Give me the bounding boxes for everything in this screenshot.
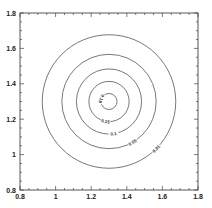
- x-tick-label: 1.6: [158, 193, 168, 200]
- x-tick-label: 1: [54, 193, 58, 200]
- plot-frame: [20, 13, 198, 190]
- y-tick-label: 1: [12, 151, 16, 158]
- axis-ticks: [20, 13, 198, 190]
- y-tick-label: 1.8: [6, 10, 16, 17]
- y-tick-label: 1.6: [6, 45, 16, 52]
- x-tick-label: 1.8: [193, 193, 203, 200]
- contour-label: 0.05: [128, 138, 139, 147]
- contour-label: 0.15: [101, 118, 111, 125]
- axes-box: [20, 13, 198, 190]
- y-axis-tick-labels: 0.811.21.41.61.8: [6, 10, 16, 194]
- x-tick-label: 1.2: [86, 193, 96, 200]
- x-axis-tick-labels: 0.811.21.41.61.8: [15, 193, 203, 200]
- x-tick-label: 0.8: [15, 193, 25, 200]
- contour-chart: 0.811.21.41.61.8 0.811.21.41.61.8 0.190.…: [0, 0, 212, 208]
- y-tick-label: 1.2: [6, 116, 16, 123]
- x-tick-label: 1.4: [122, 193, 132, 200]
- contour-label: 0.1: [110, 131, 117, 137]
- contour-line: [89, 81, 129, 121]
- y-tick-label: 0.8: [6, 187, 16, 194]
- y-tick-label: 1.4: [6, 80, 16, 87]
